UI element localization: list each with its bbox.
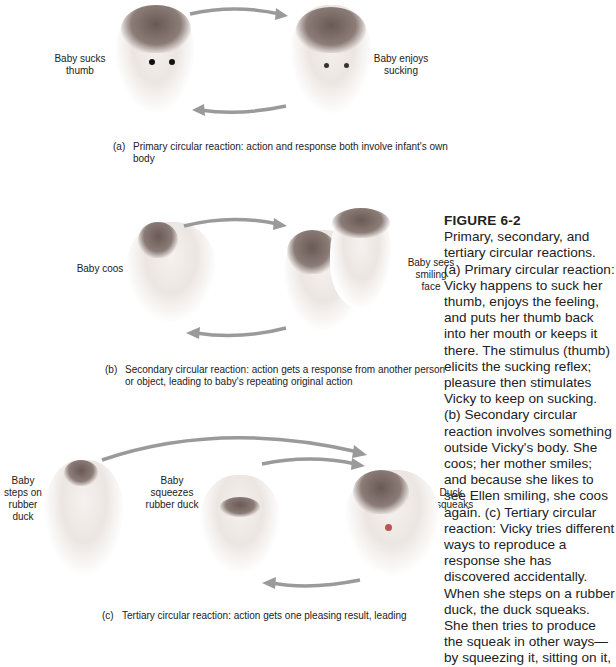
figure-title: FIGURE 6-2	[444, 213, 616, 229]
caption-c-tag: (c)	[102, 610, 114, 622]
figure-legend: FIGURE 6-2 Primary, secondary, and terti…	[444, 213, 616, 667]
caption-c: (c) Tertiary circular reaction: action g…	[102, 610, 472, 624]
figure-description: Primary, secondary, and tertiary circula…	[444, 229, 616, 666]
caption-c-text: Tertiary circular reaction: action gets …	[122, 610, 452, 622]
